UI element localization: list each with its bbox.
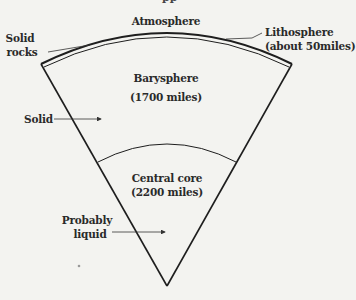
lithosphere-boundary-arc (44, 37, 289, 67)
probably-liquid-label-line1: Probably (62, 214, 112, 226)
central-core-label: Central core (132, 172, 203, 184)
lithosphere-thickness: (about 50miles) (265, 40, 356, 52)
barysphere-thickness: (1700 miles) (130, 91, 202, 103)
atmosphere-label: Atmosphere (132, 15, 201, 27)
lithosphere-label: Lithosphere (265, 26, 333, 38)
barysphere-label: Barysphere (133, 72, 198, 84)
lithosphere-leader (226, 33, 262, 39)
central-core-thickness: (2200 miles) (131, 186, 203, 198)
speck (78, 265, 81, 268)
outer-surface-arc (41, 33, 292, 64)
solid-rocks-label-line2: rocks (6, 46, 37, 58)
probably-liquid-label-line2: liquid (73, 228, 106, 240)
solid-label: Solid (24, 113, 53, 125)
core-boundary-arc (98, 144, 236, 162)
solid-rocks-label-line1: Solid (6, 32, 35, 44)
